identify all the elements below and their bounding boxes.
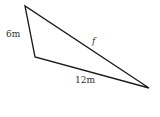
side-label-left: 6m [6, 29, 21, 39]
side-label-bottom: 12m [75, 75, 95, 85]
side-label-hypotenuse: f [91, 36, 97, 46]
triangle-diagram: 6m f 12m [0, 0, 160, 117]
